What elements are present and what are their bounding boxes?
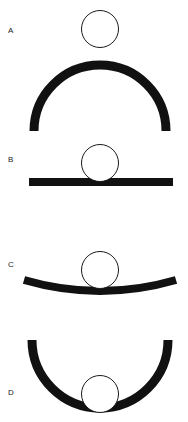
- ball-c: [82, 252, 119, 289]
- ball-a: [82, 11, 119, 48]
- figure-root: A B C D: [0, 0, 188, 422]
- panel-d-drawing: [0, 320, 188, 422]
- panel-c-drawing: [0, 240, 188, 320]
- panel-d: D: [0, 320, 188, 422]
- ball-d: [82, 376, 119, 413]
- panel-c: C: [0, 240, 188, 320]
- panel-a: A: [0, 0, 188, 138]
- panel-b-drawing: [0, 138, 188, 240]
- convex-dome-surface: [34, 65, 166, 131]
- panel-a-drawing: [0, 0, 188, 138]
- ball-b: [82, 145, 119, 182]
- panel-b: B: [0, 138, 188, 240]
